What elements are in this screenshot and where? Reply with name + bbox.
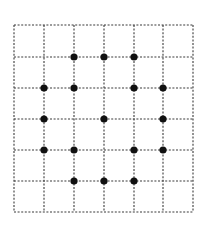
grid-dot xyxy=(130,146,137,153)
grid-dot xyxy=(159,84,166,91)
grid-dot xyxy=(40,146,47,153)
grid-dot xyxy=(70,53,77,60)
grid-dot xyxy=(100,115,107,122)
grid-dot xyxy=(130,177,137,184)
dot-grid-diagram xyxy=(0,0,204,232)
grid-dot xyxy=(159,115,166,122)
grid-dot xyxy=(130,53,137,60)
grid-dot xyxy=(70,84,77,91)
grid-dot xyxy=(70,146,77,153)
grid-dot xyxy=(130,84,137,91)
grid-dot xyxy=(40,84,47,91)
grid-dot xyxy=(100,53,107,60)
grid-dot xyxy=(70,177,77,184)
grid-dot xyxy=(100,177,107,184)
grid-dot xyxy=(40,115,47,122)
grid-dot xyxy=(159,146,166,153)
